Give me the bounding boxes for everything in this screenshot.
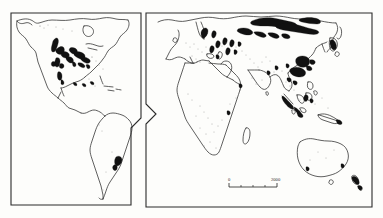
south-america-coastline bbox=[90, 113, 132, 199]
africa-coastline bbox=[177, 63, 250, 155]
distance-scale-bar: 0 2000 bbox=[228, 177, 281, 187]
right-panel-frame bbox=[146, 13, 372, 207]
eurasia-coastline bbox=[158, 16, 342, 91]
distribution-patches-eurasia bbox=[201, 18, 362, 191]
left-panel[interactable] bbox=[11, 13, 141, 205]
scale-start-label: 0 bbox=[228, 177, 231, 182]
left-panel-frame bbox=[11, 13, 141, 205]
australia-coastline bbox=[266, 82, 362, 191]
scale-end-label: 2000 bbox=[271, 177, 281, 182]
north-america-coastline bbox=[17, 18, 129, 116]
map-figure: 0 2000 bbox=[0, 0, 383, 218]
right-panel[interactable]: 0 2000 bbox=[146, 13, 372, 207]
distribution-patches-americas bbox=[51, 38, 122, 171]
world-map-svg[interactable]: 0 2000 bbox=[0, 0, 383, 218]
